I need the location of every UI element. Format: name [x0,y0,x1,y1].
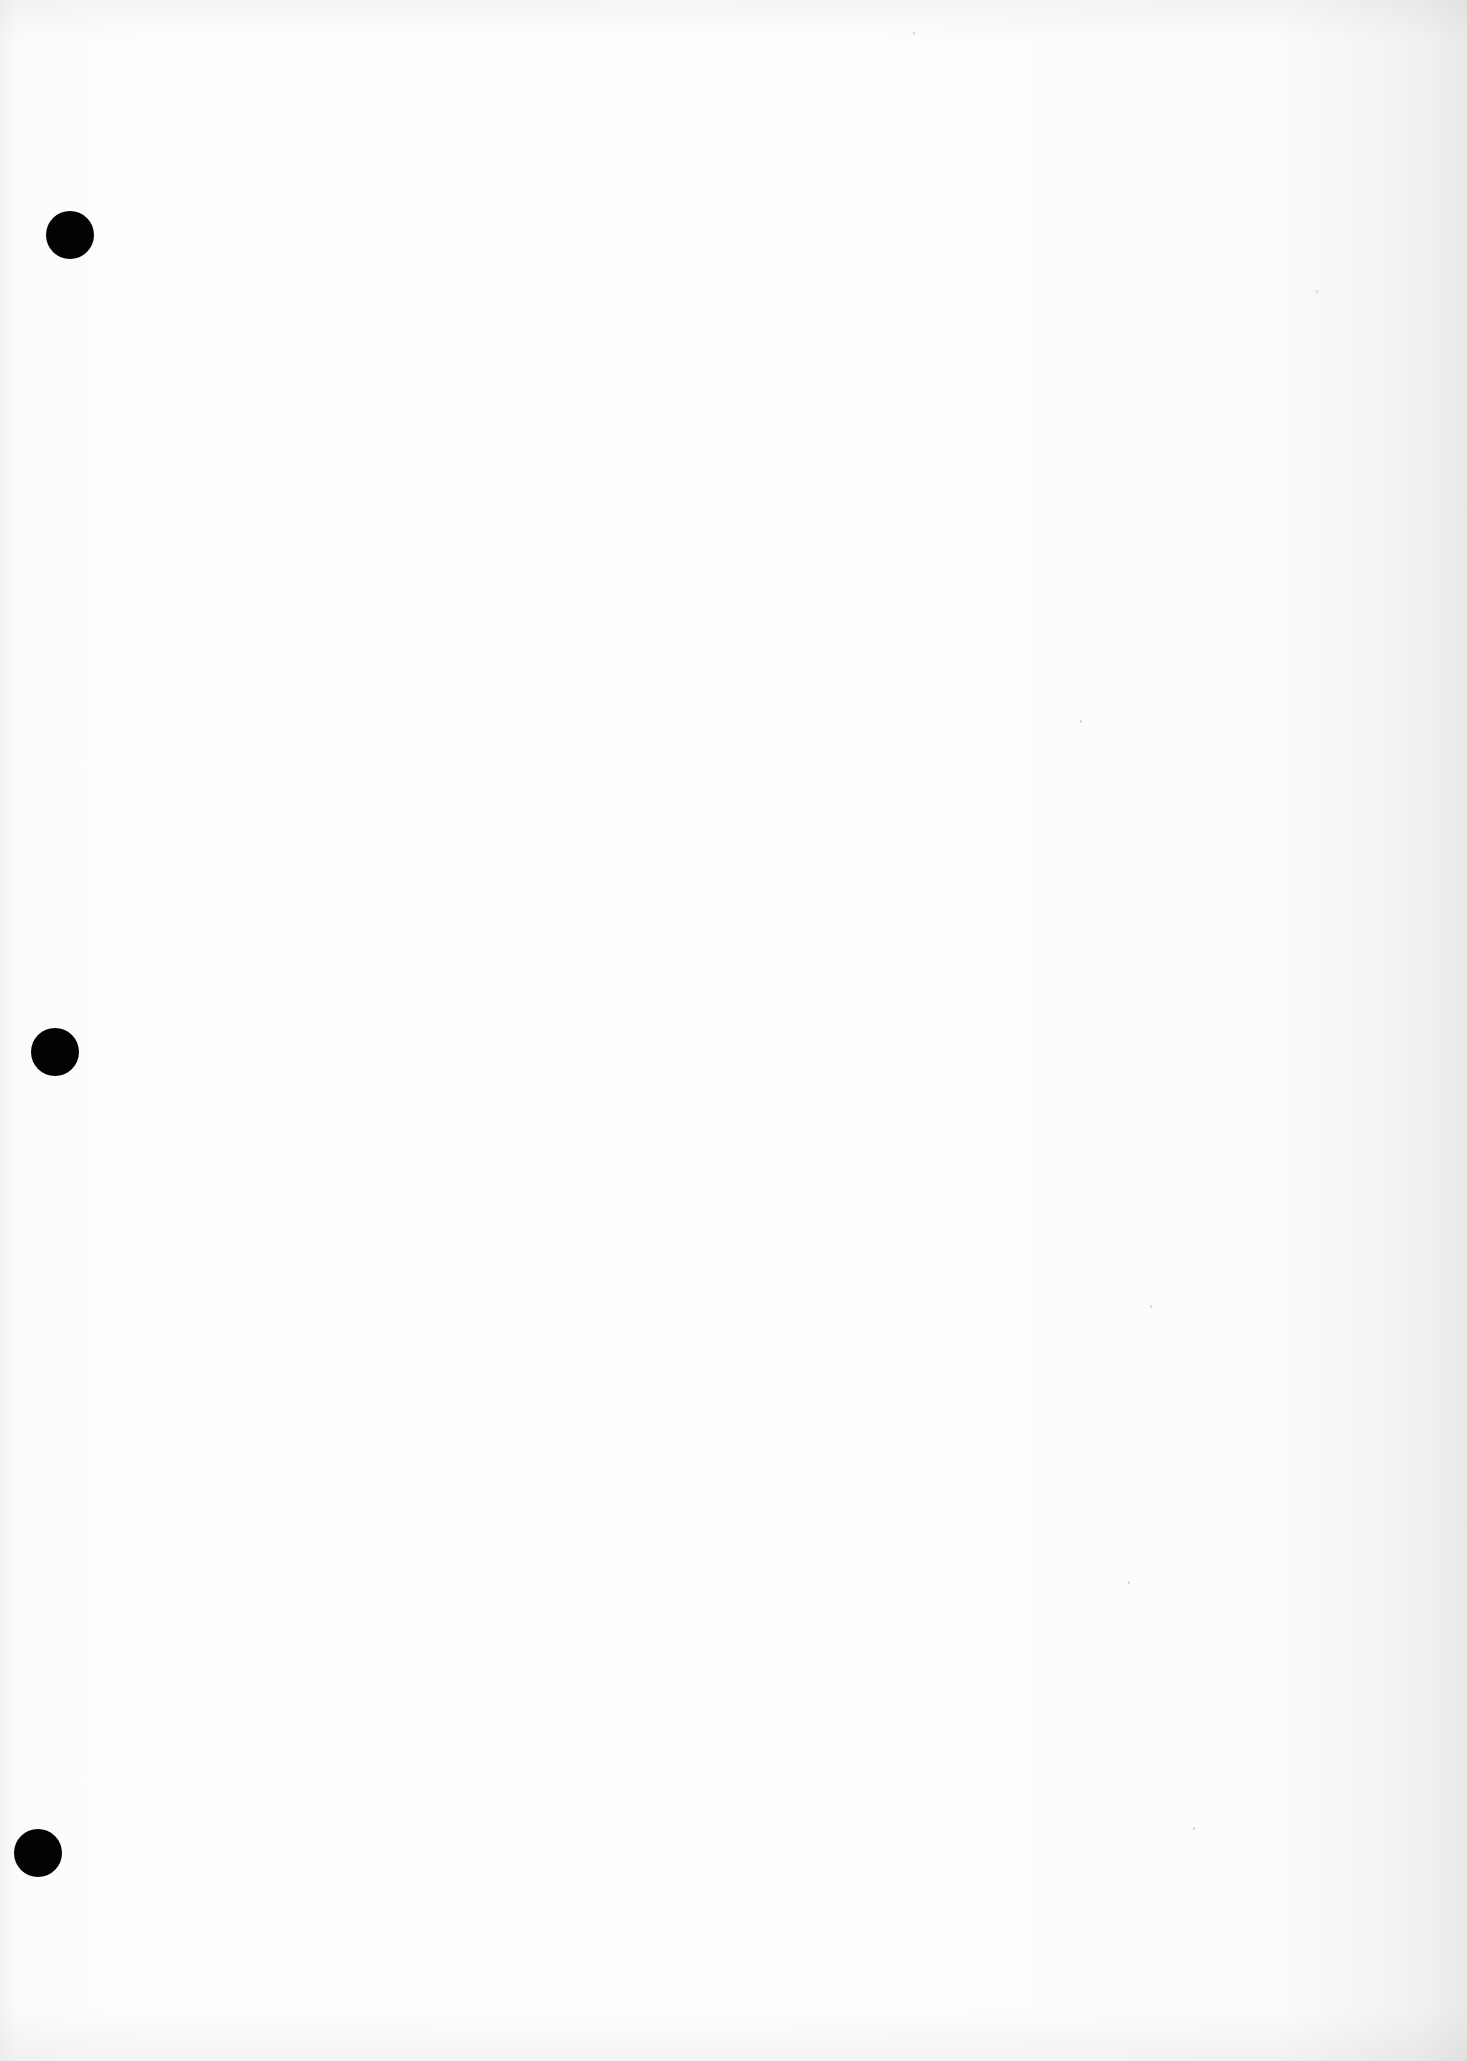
punch-hole-bottom [14,1829,62,1877]
scanned-blank-page [0,0,1467,2061]
punch-hole-middle [31,1028,79,1076]
paper-speck [1080,720,1082,723]
punch-hole-top [46,211,94,259]
paper-speck [1193,1827,1195,1830]
paper-speck [1128,1581,1130,1584]
paper-speck [913,32,915,35]
paper-speck [1150,1305,1152,1308]
paper-speck [1316,290,1318,293]
